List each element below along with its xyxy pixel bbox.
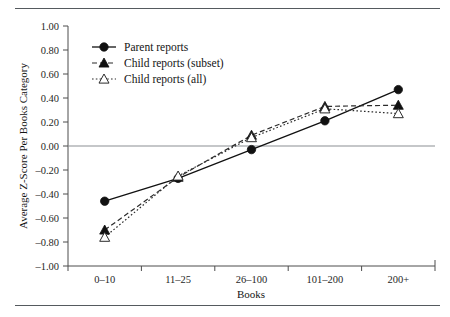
y-tick-label: 0.00 bbox=[41, 141, 59, 152]
x-tick-label: 26–100 bbox=[236, 274, 268, 285]
y-tick-label: –0.60 bbox=[34, 213, 59, 224]
y-tick-label: –0.20 bbox=[34, 165, 59, 176]
line-chart: 1.000.800.600.400.200.00–0.20–0.40–0.60–… bbox=[0, 0, 450, 317]
legend-item-0: Parent reports bbox=[92, 41, 189, 54]
series-line-2 bbox=[105, 109, 399, 237]
y-tick-label: 0.80 bbox=[41, 45, 59, 56]
x-axis-tick-labels: 0–1011–2526–100101–200200+ bbox=[94, 274, 409, 285]
legend-label-2: Child reports (all) bbox=[124, 73, 207, 86]
y-axis-tick-labels: 1.000.800.600.400.200.00–0.20–0.40–0.60–… bbox=[34, 21, 59, 272]
x-axis-title: Books bbox=[237, 288, 265, 300]
data-point-circle-legend-0 bbox=[100, 43, 108, 51]
y-axis-title: Average Z-Score Per Books Category bbox=[17, 63, 29, 229]
data-point-circle-0-2 bbox=[247, 145, 255, 153]
x-tick-label: 0–10 bbox=[94, 274, 115, 285]
y-tick-label: 0.20 bbox=[41, 117, 59, 128]
series-line-1 bbox=[105, 105, 399, 230]
legend-label-1: Child reports (subset) bbox=[124, 57, 224, 70]
x-axis bbox=[68, 260, 435, 266]
data-point-circle-0-0 bbox=[101, 197, 109, 205]
x-tick-label: 200+ bbox=[387, 274, 409, 285]
legend-label-0: Parent reports bbox=[124, 41, 189, 54]
x-tick-label: 101–200 bbox=[307, 274, 344, 285]
x-axis-ticks bbox=[68, 266, 435, 271]
legend-item-2: Child reports (all) bbox=[92, 73, 207, 86]
y-tick-label: 1.00 bbox=[41, 21, 59, 32]
data-point-circle-0-4 bbox=[394, 85, 402, 93]
figure-container: 1.000.800.600.400.200.00–0.20–0.40–0.60–… bbox=[0, 0, 450, 317]
y-tick-label: –0.40 bbox=[34, 189, 59, 200]
y-tick-label: 0.40 bbox=[41, 93, 59, 104]
y-tick-label: 0.60 bbox=[41, 69, 59, 80]
data-point-circle-0-3 bbox=[321, 117, 329, 125]
x-tick-label: 11–25 bbox=[165, 274, 191, 285]
y-axis-ticks bbox=[63, 26, 68, 266]
y-tick-label: –1.00 bbox=[34, 261, 59, 272]
series-layer bbox=[100, 85, 404, 241]
chart-legend: Parent reportsChild reports (subset)Chil… bbox=[92, 41, 224, 86]
legend-item-1: Child reports (subset) bbox=[92, 57, 224, 70]
y-tick-label: –0.80 bbox=[34, 237, 59, 248]
